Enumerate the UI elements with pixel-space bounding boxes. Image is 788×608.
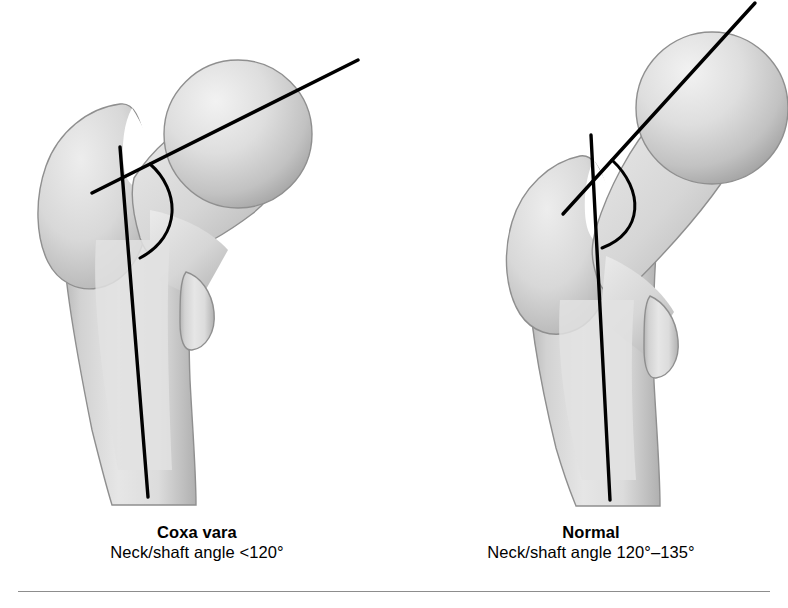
caption-coxa-vara: Coxa vara Neck/shaft angle <120° xyxy=(0,522,394,563)
footer-divider xyxy=(18,591,770,592)
lesser-trochanter xyxy=(644,296,678,378)
caption-title: Normal xyxy=(394,522,788,542)
femur-comparison-figure: Coxa vara Neck/shaft angle <120° Normal … xyxy=(0,0,788,608)
caption-subtitle: Neck/shaft angle <120° xyxy=(0,542,394,563)
caption-title: Coxa vara xyxy=(0,522,394,542)
left-femur-group xyxy=(38,60,358,505)
right-femur-group xyxy=(506,3,788,506)
caption-normal: Normal Neck/shaft angle 120°–135° xyxy=(394,522,788,563)
femoral-head xyxy=(164,60,312,208)
femur-illustration-svg xyxy=(0,0,788,608)
caption-subtitle: Neck/shaft angle 120°–135° xyxy=(394,542,788,563)
